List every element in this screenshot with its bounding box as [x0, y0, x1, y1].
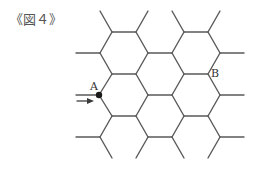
lattice-edge — [172, 53, 184, 74]
lattice-edge — [100, 53, 112, 74]
lattice-edge — [172, 116, 184, 137]
lattice-edge — [136, 53, 148, 74]
lattice-edge — [208, 32, 220, 53]
lattice-edge — [136, 11, 148, 32]
lattice-edge — [172, 32, 184, 53]
lattice-edge — [136, 137, 148, 158]
lattice-edge — [172, 137, 184, 158]
lattice-edge — [208, 11, 220, 32]
lattice-edge — [136, 116, 148, 137]
lattice-edge — [100, 32, 112, 53]
lattice-edges — [76, 11, 244, 158]
lattice-edge — [136, 74, 148, 95]
hexagonal-lattice-diagram — [0, 0, 262, 169]
lattice-edge — [172, 74, 184, 95]
point-b-label: B — [211, 67, 219, 80]
lattice-edge — [99, 74, 112, 95]
lattice-edge — [172, 95, 184, 116]
lattice-edge — [99, 95, 112, 116]
lattice-edge — [208, 95, 220, 116]
lattice-edge — [208, 116, 220, 137]
arrow-icon — [77, 98, 94, 104]
lattice-edge — [100, 137, 112, 158]
lattice-edge — [136, 32, 148, 53]
point-a-label: A — [90, 80, 98, 93]
lattice-edge — [172, 11, 184, 32]
lattice-edge — [100, 116, 112, 137]
lattice-edge — [208, 137, 220, 158]
lattice-edge — [100, 11, 112, 32]
lattice-edge — [136, 95, 148, 116]
